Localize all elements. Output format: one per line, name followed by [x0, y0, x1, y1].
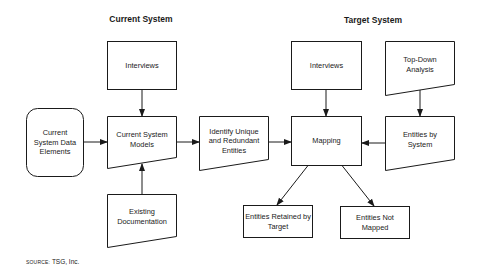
- current-data-elements-label: Current System Data Elements: [33, 109, 77, 176]
- current-models-label: Current System Models: [116, 117, 168, 163]
- existing-docs-label: Existing Documentation: [108, 195, 176, 239]
- entities-by-system-label: Entities by System: [395, 117, 445, 163]
- top-down-label: Top-Down Analysis: [395, 42, 445, 87]
- entities-not-mapped-label: Entities Not Mapped: [350, 207, 400, 238]
- target-interviews-label: Interviews: [292, 42, 361, 89]
- mapping-label: Mapping: [292, 117, 361, 165]
- source-prefix: SOURCE:: [26, 259, 50, 265]
- entities-retained-label: Entities Retained by Target: [244, 206, 312, 237]
- current-interviews-label: Interviews: [108, 42, 176, 89]
- source-note: SOURCE: TSG, Inc.: [26, 258, 79, 265]
- arrow-mapping-to-not-mapped: [342, 166, 374, 207]
- source-text: TSG, Inc.: [52, 258, 79, 265]
- target-system-heading: Target System: [344, 15, 402, 25]
- arrow-mapping-to-retained: [277, 166, 308, 206]
- current-system-heading: Current System: [109, 14, 172, 24]
- identify-entities-label: Identify Unique and Redundant Entities: [203, 117, 265, 165]
